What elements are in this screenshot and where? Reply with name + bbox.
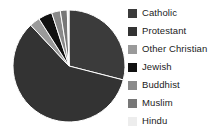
legend-swatch-hindu <box>128 117 137 126</box>
legend-label-hindu: Hindu <box>142 116 167 126</box>
legend-label-catholic: Catholic <box>142 8 177 18</box>
legend-swatch-protestant <box>128 27 137 36</box>
legend-item-hindu[interactable]: Hindu <box>128 114 216 128</box>
pie-chart-svg <box>12 9 126 123</box>
legend-swatch-muslim <box>128 99 137 108</box>
chart-legend: Catholic Protestant Other Christian Jewi… <box>128 6 216 128</box>
legend-swatch-buddhist <box>128 81 137 90</box>
legend-item-jewish[interactable]: Jewish <box>128 60 216 74</box>
legend-item-catholic[interactable]: Catholic <box>128 6 216 20</box>
pie-chart-figure: Catholic Protestant Other Christian Jewi… <box>0 0 216 131</box>
legend-label-protestant: Protestant <box>142 26 186 36</box>
pie-slice-group <box>13 10 125 122</box>
legend-label-buddhist: Buddhist <box>142 80 180 90</box>
legend-swatch-catholic <box>128 9 137 18</box>
legend-swatch-jewish <box>128 63 137 72</box>
legend-label-muslim: Muslim <box>142 98 173 108</box>
legend-label-jewish: Jewish <box>142 62 172 72</box>
legend-swatch-other-christian <box>128 45 137 54</box>
legend-label-other-christian: Other Christian <box>142 44 207 54</box>
pie-chart-plot-area <box>0 0 130 131</box>
legend-item-muslim[interactable]: Muslim <box>128 96 216 110</box>
legend-item-protestant[interactable]: Protestant <box>128 24 216 38</box>
legend-item-other-christian[interactable]: Other Christian <box>128 42 216 56</box>
legend-item-buddhist[interactable]: Buddhist <box>128 78 216 92</box>
